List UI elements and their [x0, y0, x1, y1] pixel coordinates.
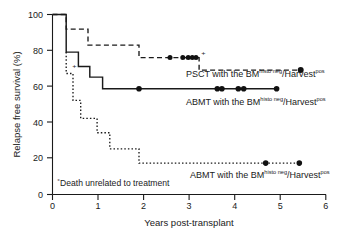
abmt-dotted-censor-dot: [263, 160, 269, 166]
abmt-dotted-label-group: ABMT with the BMhisto neg/Harvestpos: [190, 169, 330, 180]
abmt-solid-label-sup-histo-neg: histo neg: [260, 96, 283, 102]
abmt-solid-label-prefix: ABMT with the BM: [186, 97, 260, 107]
psct-label-mid: /Harvest: [282, 69, 316, 79]
footnote-body: Death unrelated to treatment: [60, 178, 170, 188]
y-tick-label-100: 100: [28, 10, 43, 20]
relapse-free-survival-chart: 100 80 60 40 20 0 0 1 2 3 4 5 6 Relapse …: [0, 0, 355, 233]
y-tick-label-20: 20: [33, 153, 43, 163]
abmt-dotted-death-plus-mark: ⁺: [72, 63, 77, 73]
kaplan-meier-figure: 100 80 60 40 20 0 0 1 2 3 4 5 6 Relapse …: [0, 0, 355, 233]
y-axis-title: Relapse free survival (%): [11, 51, 22, 157]
legend-psct: PSCT with the BMhisto neg/Harvestpos: [186, 68, 325, 79]
abmt-dotted-label-sup-pos: pos: [321, 169, 330, 175]
abmt-dotted-endpoint-dot: [297, 160, 303, 166]
psct-censor-dot: [168, 55, 173, 60]
x-tick-label-0: 0: [50, 201, 55, 211]
x-tick-label-4: 4: [232, 201, 237, 211]
x-tick-label-5: 5: [278, 201, 283, 211]
abmt-dotted-label-prefix: ABMT with the BM: [190, 170, 264, 180]
y-tick-label-80: 80: [33, 46, 43, 56]
abmt-solid-label-mid: /Harvest: [283, 97, 317, 107]
x-axis-title: Years post-transplant: [144, 217, 234, 228]
psct-label-group: PSCT with the BMhisto neg/Harvestpos: [186, 68, 325, 79]
x-tick-label-6: 6: [323, 201, 328, 211]
psct-label-sup-histo-neg: histo neg: [259, 68, 282, 74]
x-tick-label-1: 1: [95, 201, 100, 211]
x-tick-label-2: 2: [141, 201, 146, 211]
legend-abmt-dotted: ABMT with the BMhisto neg/Harvestpos: [190, 169, 330, 180]
abmt-solid-label-group: ABMT with the BMhisto neg/Harvestpos: [186, 96, 326, 107]
series-abmt-solid: [53, 15, 280, 92]
x-tick-label-3: 3: [187, 201, 192, 211]
psct-curve-path: [53, 15, 301, 71]
abmt-solid-censor-dot: [219, 86, 225, 92]
abmt-solid-censor-dot: [241, 86, 247, 92]
abmt-solid-censor-dot: [236, 86, 242, 92]
psct-censor-dot: [194, 55, 199, 60]
legend-abmt-solid: ABMT with the BMhisto neg/Harvestpos: [186, 96, 326, 107]
axis-group: 100 80 60 40 20 0 0 1 2 3 4 5 6 Relapse …: [11, 10, 328, 228]
y-tick-label-40: 40: [33, 118, 43, 128]
psct-censor-dot: [180, 55, 185, 60]
abmt-solid-censor-dot: [136, 86, 142, 92]
footnote-death-unrelated: ⁺Death unrelated to treatment: [57, 178, 170, 188]
footnote-text-group: ⁺Death unrelated to treatment: [57, 178, 170, 188]
y-tick-label-60: 60: [33, 82, 43, 92]
series-psct-dashed: ⁺: [53, 15, 304, 74]
abmt-dotted-label-sup-histo-neg: histo neg: [264, 169, 287, 175]
y-tick-label-0: 0: [38, 190, 43, 200]
psct-death-plus-mark: ⁺: [201, 50, 206, 60]
abmt-solid-endpoint-dot: [274, 86, 280, 92]
abmt-dotted-label-mid: /Harvest: [287, 170, 321, 180]
psct-label-sup-pos: pos: [316, 68, 325, 74]
psct-label-prefix: PSCT with the BM: [186, 69, 259, 79]
abmt-solid-label-sup-pos: pos: [317, 96, 326, 102]
